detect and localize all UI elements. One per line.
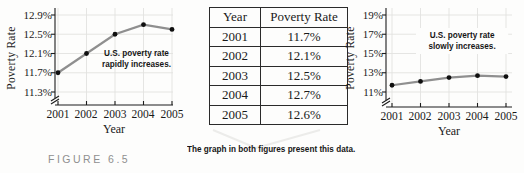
year-cell: 2002 [210, 47, 261, 67]
data-point-marker [56, 70, 61, 75]
right-x-axis-title: Year [386, 124, 512, 139]
table-row: 2005 12.6% [210, 105, 348, 125]
data-point-marker [141, 22, 146, 27]
data-point-marker [418, 79, 423, 84]
left-chart-annotation: U.S. poverty rate rapidly increases. [100, 48, 173, 70]
data-point-marker [84, 51, 89, 56]
y-tick-label: 17% [341, 28, 383, 41]
annotation-line: U.S. poverty rate [430, 30, 495, 40]
table-row: 2003 12.5% [210, 66, 348, 86]
table-header-row: Year Poverty Rate [210, 8, 348, 28]
annotation-line: rapidly increases. [102, 59, 171, 69]
table-row: 2001 11.7% [210, 27, 348, 47]
data-point-marker [447, 75, 452, 80]
x-tick-label: 2004 [127, 108, 159, 121]
left-line-chart: Poverty Rate 12.9% 12.5% 12.1% 11.7% 11.… [0, 0, 192, 140]
data-point-marker [113, 32, 118, 37]
y-tick-label: 11.7% [10, 66, 52, 79]
rate-cell: 12.6% [261, 105, 348, 125]
y-tick-label: 12.5% [10, 28, 52, 41]
rate-cell: 11.7% [261, 27, 348, 47]
data-point-marker [504, 74, 509, 79]
table-header-poverty-rate: Poverty Rate [261, 8, 348, 28]
table-row: 2002 12.1% [210, 47, 348, 67]
year-cell: 2001 [210, 27, 261, 47]
figure-caption: The graph in both figures present this d… [187, 144, 389, 154]
right-line-chart: Poverty Rate 19% 17% 15% 13% 11% 2001 20… [340, 0, 524, 142]
x-tick-label: 2002 [404, 110, 436, 123]
year-cell: 2005 [210, 105, 261, 125]
x-tick-label: 2002 [70, 108, 102, 121]
y-tick-label: 12.1% [10, 47, 52, 60]
x-tick-label: 2005 [156, 108, 188, 121]
year-cell: 2004 [210, 86, 261, 106]
y-tick-label: 11% [341, 86, 383, 99]
left-x-axis-title: Year [55, 122, 173, 137]
y-tick-label: 13% [341, 66, 383, 79]
y-tick-label: 11.3% [10, 86, 52, 99]
poverty-table: Year Poverty Rate 2001 11.7% 2002 12.1% … [209, 7, 348, 125]
rate-cell: 12.7% [261, 86, 348, 106]
y-tick-label: 12.9% [10, 9, 52, 22]
y-tick-label: 15% [341, 47, 383, 60]
annotation-line: slowly increases. [429, 41, 496, 51]
table-row: 2004 12.7% [210, 86, 348, 106]
figure-6-5: Poverty Rate 12.9% 12.5% 12.1% 11.7% 11.… [0, 0, 524, 173]
rate-cell: 12.5% [261, 66, 348, 86]
table-header-year: Year [210, 8, 261, 28]
data-point-marker [170, 27, 175, 32]
right-chart-annotation: U.S. poverty rate slowly increases. [416, 28, 508, 54]
x-tick-label: 2005 [490, 110, 522, 123]
year-cell: 2003 [210, 66, 261, 86]
rate-cell: 12.1% [261, 47, 348, 67]
data-point-marker [475, 73, 480, 78]
y-tick-label: 19% [341, 9, 383, 22]
data-point-marker [390, 83, 395, 88]
x-tick-label: 2004 [461, 110, 493, 123]
annotation-line: U.S. poverty rate [104, 48, 169, 58]
figure-label: FIGURE 6.5 [48, 153, 130, 165]
